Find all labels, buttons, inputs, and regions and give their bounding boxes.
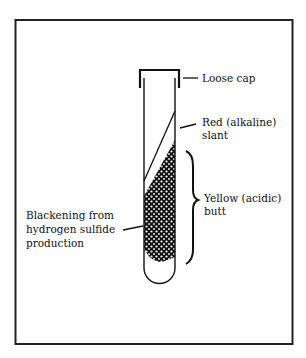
slant-leader-line <box>180 124 196 128</box>
label-slant-line1: Red (alkaline) <box>202 116 276 128</box>
label-blackening-line1: Blackening from <box>26 209 114 221</box>
label-butt-line1: Yellow (acidic) <box>203 192 281 204</box>
label-blackening-line2: hydrogen sulfide <box>26 223 115 235</box>
blackened-butt-region <box>144 140 175 262</box>
blackening-leader-line <box>123 226 143 230</box>
butt-brace <box>186 151 198 264</box>
tsi-tube-diagram: Loose cap Red (alkaline) slant Yellow (a… <box>0 0 306 358</box>
label-blackening-line3: production <box>26 237 84 249</box>
label-slant-line2: slant <box>202 129 229 141</box>
loose-cap <box>140 70 179 88</box>
label-loose-cap: Loose cap <box>202 72 256 84</box>
label-butt-line2: butt <box>204 205 227 217</box>
